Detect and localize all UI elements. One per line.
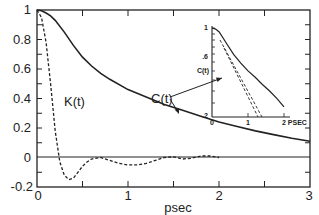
inset-chart: 1 .6 .2 C(t) 0 1 2 PSEC [197, 24, 307, 126]
inset-y-tick-label: 1 [204, 24, 208, 31]
inset-x-tick-label: 2 PSEC [282, 119, 307, 126]
correlation-function-chart: 1 0.8 0.6 0.4 0.2 0 -0.2 0 1 2 3 psec K(… [0, 0, 319, 215]
inset-fit-line-lower [224, 48, 258, 117]
y-tick-label: 0.6 [13, 61, 31, 76]
y-tick-label: 1 [24, 2, 31, 17]
inset-c-t-curve [212, 28, 284, 107]
y-tick-label: -0.2 [11, 179, 33, 194]
c-t-arrow-inset [170, 78, 222, 97]
inset-x-tick-label: 0 [210, 119, 214, 126]
y-tick-label: 0.4 [13, 91, 31, 106]
c-t-label: C(t) [151, 91, 173, 106]
c-t-curve [37, 10, 310, 141]
inset-y-tick-label: .2 [202, 112, 208, 119]
y-tick-labels: 1 0.8 0.6 0.4 0.2 0 -0.2 [11, 2, 33, 194]
arrowhead-icon [175, 109, 180, 115]
inset-y-axis-label: C(t) [197, 67, 209, 75]
y-tick-label: 0.2 [13, 120, 31, 135]
k-t-label: K(t) [64, 94, 85, 109]
y-tick-label: 0.8 [13, 32, 31, 47]
arrowhead-icon [216, 78, 222, 83]
x-tick-label: 1 [124, 188, 131, 203]
x-tick-label: 2 [215, 188, 222, 203]
x-axis-label: psec [164, 200, 192, 215]
x-tick-label: 3 [305, 188, 312, 203]
inset-y-tick-label: .6 [202, 53, 208, 60]
inset-x-tick-label: 1 [246, 119, 250, 126]
y-tick-label: 0 [24, 150, 31, 165]
x-tick-label: 0 [34, 188, 41, 203]
